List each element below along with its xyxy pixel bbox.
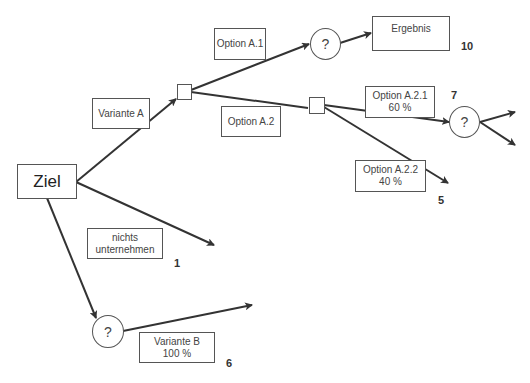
- question-mark-icon: ?: [322, 36, 330, 52]
- chance-node-a21: ?: [449, 106, 480, 138]
- question-mark-icon: ?: [104, 324, 112, 340]
- edge-label-variante-a: Variante A: [92, 98, 150, 129]
- value-ergebnis: 10: [461, 40, 473, 52]
- edge-label-nichts-unternehmen: nichts unternehmen: [87, 228, 163, 259]
- chance-node-a1: ?: [310, 28, 341, 60]
- edge-variante-b-outcome: [123, 305, 252, 331]
- option-a1-text: Option A.1: [217, 38, 264, 50]
- option-a22-probability: 40 %: [379, 176, 402, 188]
- option-a22-text: Option A.2.2: [363, 164, 418, 176]
- edge-label-option-a1: Option A.1: [214, 28, 266, 60]
- variante-b-text: Variante B: [154, 336, 200, 348]
- value-variante-b: 6: [226, 357, 232, 369]
- variante-a-text: Variante A: [98, 108, 143, 120]
- root-label: Ziel: [33, 176, 60, 188]
- edge-to-ergebnis: [340, 33, 371, 43]
- value-option-a21: 7: [451, 89, 457, 101]
- variante-b-probability: 100 %: [163, 348, 191, 360]
- value-nichts-unternehmen: 1: [174, 257, 180, 269]
- edge-label-option-a21: Option A.2.1 60 %: [365, 86, 435, 118]
- option-a2-text: Option A.2: [228, 116, 275, 128]
- edge-label-option-a2: Option A.2: [221, 106, 281, 137]
- nichts-text: nichts: [112, 232, 138, 244]
- unternehmen-text: unternehmen: [96, 244, 155, 256]
- decision-node-a2: [309, 97, 325, 114]
- value-option-a22: 5: [438, 194, 444, 206]
- option-a21-text: Option A.2.1: [372, 90, 427, 102]
- edge-label-option-a22: Option A.2.2 40 %: [355, 160, 426, 192]
- option-a21-probability: 60 %: [389, 102, 412, 114]
- question-mark-icon: ?: [461, 114, 469, 130]
- edge-a21-branch-up: [480, 112, 515, 122]
- edge-a21-branch-down: [480, 122, 515, 145]
- decision-node-a: [177, 84, 192, 100]
- edge-label-variante-b: Variante B 100 %: [139, 332, 215, 363]
- chance-node-b: ?: [92, 315, 124, 348]
- ergebnis-text: Ergebnis: [391, 23, 430, 35]
- result-node-ergebnis: Ergebnis: [372, 16, 450, 51]
- root-node-ziel: Ziel: [17, 164, 77, 199]
